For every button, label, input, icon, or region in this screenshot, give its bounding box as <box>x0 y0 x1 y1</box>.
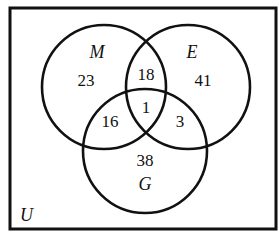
venn-diagram: M E G U 23 41 18 1 16 3 38 <box>0 0 279 238</box>
region-m-e: 18 <box>138 65 155 84</box>
region-m-g: 16 <box>102 112 119 131</box>
region-e-only: 41 <box>195 71 212 90</box>
universe-label: U <box>20 205 34 225</box>
region-m-e-g: 1 <box>142 98 151 117</box>
region-m-only: 23 <box>78 71 95 90</box>
region-g-only: 38 <box>137 151 154 170</box>
set-label-m: M <box>89 42 106 62</box>
set-label-g: G <box>139 174 152 194</box>
region-e-g: 3 <box>176 112 185 131</box>
set-label-e: E <box>186 42 198 62</box>
